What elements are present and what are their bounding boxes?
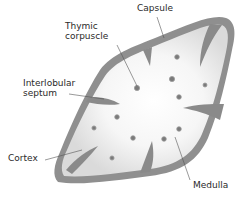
label-interlobular-septum: Interlobular septum xyxy=(23,78,75,98)
label-cortex: Cortex xyxy=(8,153,38,163)
label-medulla: Medulla xyxy=(193,180,228,190)
thymus-lobule-diagram xyxy=(0,0,242,197)
label-thymic-corpuscle: Thymic corpuscle xyxy=(65,21,108,41)
label-capsule: Capsule xyxy=(137,3,173,13)
